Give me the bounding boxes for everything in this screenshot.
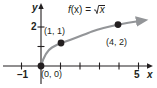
point-label-1-1: (1, 1) bbox=[44, 27, 65, 36]
radical-sign-icon bbox=[94, 5, 99, 14]
point-label-4-2: (4, 2) bbox=[106, 38, 127, 47]
square-root-radical: x bbox=[94, 5, 105, 15]
x-tick-label-5: 5 bbox=[134, 70, 140, 80]
radical-vinculum bbox=[99, 5, 105, 6]
data-point-1-1 bbox=[58, 40, 65, 47]
y-axis-label: y bbox=[32, 3, 38, 13]
function-argument: (x) bbox=[71, 4, 83, 15]
x-axis-label: x bbox=[147, 70, 153, 80]
function-expression: f(x) = x bbox=[68, 5, 105, 15]
point-label-origin: (0, 0) bbox=[41, 70, 62, 79]
data-point-4-2 bbox=[115, 21, 122, 28]
sqrt-function-graph-figure: y x 2 –1 5 (0, 0) (1, 1) (4, 2) f(x) = x bbox=[0, 0, 157, 88]
function-equals-sign: = bbox=[82, 4, 93, 15]
y-tick-label-2: 2 bbox=[31, 22, 37, 32]
x-tick-label-negative-1: –1 bbox=[17, 70, 28, 80]
